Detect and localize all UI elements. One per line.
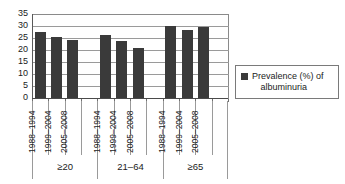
- category-label: 1999–2004: [44, 110, 53, 153]
- group-label: ≥20: [57, 162, 73, 172]
- bar: [116, 41, 127, 98]
- group-labels-band: ≥2021–64≥65: [32, 155, 229, 179]
- legend-label-line1: Prevalence (%) of: [252, 71, 324, 81]
- legend-label: Prevalence (%) of albuminuria: [252, 71, 324, 93]
- category-label-cell: 2005–2008: [130, 101, 146, 155]
- category-labels-band: 1988–19941999–20042005–20081988–19941999…: [32, 101, 229, 155]
- category-label: 1988–1994: [158, 110, 167, 153]
- y-tick-label: 0: [23, 93, 28, 102]
- category-label: 1999–2004: [175, 110, 184, 153]
- category-label-cell: 2005–2008: [195, 101, 211, 155]
- category-label-cell: 2005–2008: [65, 101, 81, 155]
- y-tick-label: 15: [18, 57, 28, 66]
- category-label: 2005–2008: [191, 110, 200, 153]
- bar: [67, 40, 78, 98]
- category-label: 2005–2008: [60, 110, 69, 153]
- bar-chart: 35302520151050 1988–19941999–20042005–20…: [0, 0, 345, 184]
- category-label: 1988–1994: [28, 110, 37, 153]
- legend-label-line2: albuminuria: [252, 82, 324, 93]
- bar: [100, 35, 111, 98]
- y-tick-label: 20: [18, 45, 28, 54]
- category-label-cell-empty: [212, 101, 228, 155]
- group-label: ≥65: [187, 162, 203, 172]
- chart-legend: Prevalence (%) of albuminuria: [235, 65, 339, 99]
- y-tick-label: 5: [23, 81, 28, 90]
- bar: [133, 48, 144, 98]
- y-tick-label: 35: [18, 9, 28, 18]
- legend-swatch-icon: [241, 73, 248, 80]
- group-label: 21–64: [117, 162, 143, 172]
- category-label: 2005–2008: [126, 110, 135, 153]
- bar: [198, 27, 209, 98]
- legend-item: Prevalence (%) of albuminuria: [241, 71, 334, 93]
- y-tick-label: 30: [18, 21, 28, 30]
- y-tick-label: 10: [18, 69, 28, 78]
- category-label: 1988–1994: [93, 110, 102, 153]
- category-label: 1999–2004: [109, 110, 118, 153]
- group-label-cell: ≥20: [32, 155, 97, 179]
- bar: [51, 37, 62, 98]
- bar: [35, 32, 46, 98]
- group-label-cell: ≥65: [163, 155, 228, 179]
- bar: [182, 30, 193, 98]
- y-tick-label: 25: [18, 33, 28, 42]
- group-label-cell: 21–64: [97, 155, 162, 179]
- y-axis: 35302520151050: [8, 10, 28, 102]
- bars-layer: [32, 14, 228, 98]
- bar: [165, 26, 176, 98]
